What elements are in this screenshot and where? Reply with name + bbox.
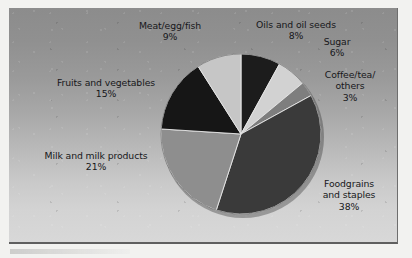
slice-label-percent: 38% <box>308 201 390 212</box>
slice-label-percent: 15% <box>42 88 170 99</box>
figure-container: Meat/egg/fish 9% Oils and oil seeds 8% S… <box>0 0 412 258</box>
slice-label-text: Milk and milk products <box>45 150 148 161</box>
slice-label-text: Oils and oil seeds <box>256 19 336 30</box>
slice-label-percent: 9% <box>118 31 222 42</box>
slice-label-text: Meat/egg/fish <box>139 20 201 31</box>
slice-label-foodgrains-and-staples: Foodgrains and staples 38% <box>308 178 390 212</box>
caption-residue <box>10 249 130 254</box>
slice-label-sugar: Sugar 6% <box>306 36 368 59</box>
slice-label-text: Sugar <box>324 36 351 47</box>
slice-label-text-2: and staples <box>308 189 390 200</box>
slice-label-percent: 3% <box>314 92 386 103</box>
slice-label-percent: 21% <box>28 161 164 172</box>
slice-label-text-2: others <box>314 80 386 91</box>
slice-label-text: Coffee/tea/ <box>325 69 375 80</box>
slice-label-text: Foodgrains <box>324 178 374 189</box>
slice-label-percent: 6% <box>306 47 368 58</box>
slice-label-coffee-tea-others: Coffee/tea/ others 3% <box>314 69 386 103</box>
slice-label-meat-egg-fish: Meat/egg/fish 9% <box>118 20 222 43</box>
slice-label-fruits-and-vegetables: Fruits and vegetables 15% <box>42 77 170 100</box>
slice-label-text: Fruits and vegetables <box>57 77 155 88</box>
slice-label-milk-and-milk-products: Milk and milk products 21% <box>28 150 164 173</box>
pie-slice-group <box>161 54 324 218</box>
